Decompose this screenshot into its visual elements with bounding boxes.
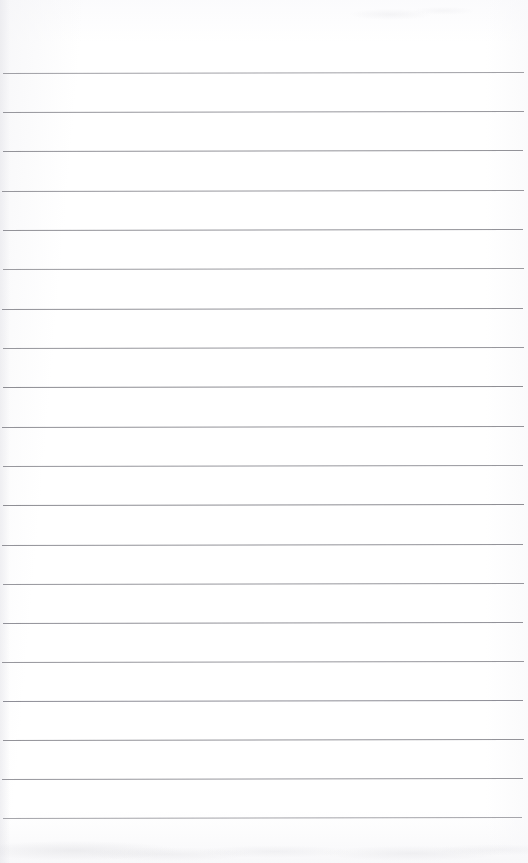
writing-row[interactable]	[0, 741, 528, 779]
writing-row[interactable]	[0, 192, 528, 230]
writing-row[interactable]	[0, 231, 528, 269]
writing-row[interactable]	[0, 349, 528, 387]
writing-row[interactable]	[0, 467, 528, 505]
writing-row[interactable]	[0, 546, 528, 584]
writing-row[interactable]	[0, 624, 528, 662]
writing-row[interactable]	[0, 780, 528, 818]
writing-row[interactable]	[0, 310, 528, 348]
writing-row[interactable]	[0, 388, 528, 426]
writing-row[interactable]	[0, 585, 528, 623]
writing-row[interactable]	[0, 428, 528, 466]
writing-row[interactable]	[0, 270, 528, 308]
writing-row[interactable]	[0, 663, 528, 701]
writing-row[interactable]	[0, 74, 528, 112]
writing-row[interactable]	[0, 702, 528, 740]
writing-row[interactable]	[0, 819, 528, 857]
writing-row[interactable]	[0, 113, 528, 151]
notepad-page	[0, 0, 528, 863]
writing-row[interactable]	[0, 506, 528, 544]
writing-row[interactable]	[0, 152, 528, 190]
